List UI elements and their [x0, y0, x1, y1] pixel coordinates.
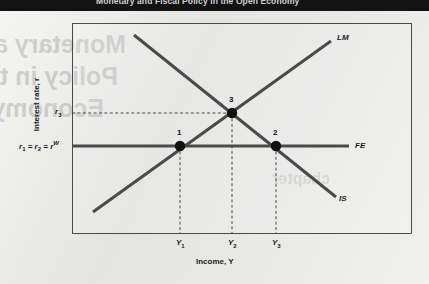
chapter-banner: Monetary and Fiscal Policy in the Open E… — [0, 0, 429, 11]
curve-label-is: IS — [339, 194, 347, 203]
x-tick-label-y2: Y2 — [228, 238, 237, 249]
equilibrium-point-label-1: 1 — [177, 128, 181, 137]
curve-label-fe: FE — [355, 141, 365, 150]
x-tick-label-y1: Y1 — [176, 238, 185, 249]
x-tick-label-y3: Y3 — [272, 238, 281, 249]
y-tick-label-r1-r2-rw: r1 = r2 = rW — [19, 140, 59, 152]
x-axis-title: Income, Y — [196, 257, 234, 266]
y-tick-label-r3: r3 — [55, 107, 61, 118]
curve-label-lm: LM — [337, 33, 349, 42]
equilibrium-point-label-2: 2 — [273, 128, 277, 137]
chart-plot-frame — [72, 23, 412, 234]
equilibrium-point-label-3: 3 — [229, 95, 233, 104]
chapter-banner-title: Monetary and Fiscal Policy in the Open E… — [96, 0, 299, 6]
